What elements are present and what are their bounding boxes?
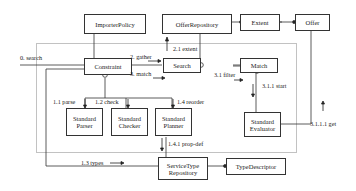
msg-1-4-1-prop-def: 1.4.1 prop-def: [168, 140, 203, 147]
box-standard-parser[interactable]: Standard Parser: [66, 108, 103, 136]
msg-3-1-filter: 3.1 filter: [214, 71, 235, 78]
box-extent[interactable]: Extent: [240, 14, 280, 31]
box-match[interactable]: Match: [240, 58, 278, 73]
box-importer-policy[interactable]: ImporterPolicy: [84, 14, 146, 34]
msg-3-1-1-1-get: 3.1.1.1 get: [310, 120, 336, 127]
msg-2-gather: 2. gather: [130, 53, 152, 60]
msg-1-2-check: 1.2 check: [95, 98, 119, 105]
msg-3-1-1-start: 3.1.1 start: [262, 82, 287, 89]
box-standard-planner[interactable]: Standard Planner: [155, 108, 192, 136]
box-offer-repository[interactable]: OfferRepository: [162, 14, 232, 34]
msg-1-3-types: 1.3 types: [81, 159, 103, 166]
msg-0-search: 0. search: [20, 54, 42, 61]
box-search[interactable]: Search: [163, 58, 201, 73]
box-constraint[interactable]: Constraint: [84, 58, 132, 75]
msg-2-1-extent: 2.1 extent: [173, 45, 197, 52]
box-offer[interactable]: Offer: [295, 14, 330, 31]
box-type-descriptor[interactable]: TypeDescriptor: [226, 158, 286, 175]
box-standard-evaluator[interactable]: Standard Evaluator: [244, 112, 281, 137]
box-standard-checker[interactable]: Standard Checker: [111, 108, 148, 136]
msg-1-4-reorder: 1.4 reorder: [177, 98, 204, 105]
msg-3-match: 3. match: [130, 70, 151, 77]
msg-1-1-parse: 1.1 parse: [53, 98, 75, 105]
box-service-type-repository[interactable]: ServiceType Repository: [158, 157, 208, 180]
